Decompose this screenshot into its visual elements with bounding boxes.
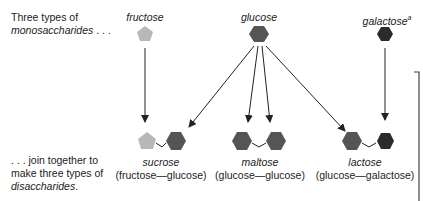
sucrose-name: sucrose: [115, 156, 206, 169]
lactose-molecule-icon: [342, 132, 394, 150]
glucose-label: glucose: [241, 11, 277, 24]
lactose-label: lactose (glucose—galactose): [316, 156, 415, 182]
monosaccharides-intro-label: Three types of monosaccharides . . .: [11, 11, 111, 37]
galactose-hexagon-icon: [377, 27, 393, 41]
glucose-hexagon-icon: [249, 26, 269, 42]
sucrose-molecule-icon: [138, 132, 186, 150]
intro-line2: monosaccharides . . .: [11, 24, 111, 37]
outro-term: disaccharides: [11, 180, 75, 192]
outro-line1: . . . join together to: [11, 154, 103, 167]
lactose-name: lactose: [316, 156, 415, 169]
glucose-to-lactose-arrow: [266, 46, 345, 131]
right-bracket: [414, 72, 419, 201]
intro-line1: Three types of: [11, 11, 111, 24]
fructose-pentagon-icon: [137, 26, 153, 41]
maltose-molecule-icon: [232, 132, 286, 150]
disaccharides-outro-label: . . . join together to make three types …: [11, 154, 103, 193]
maltose-name: maltose: [215, 156, 305, 169]
glucose-to-sucrose-arrow: [189, 46, 254, 127]
fructose-label: fructose: [126, 11, 163, 24]
outro-line2: make three types of: [11, 167, 103, 180]
outro-suffix: .: [75, 180, 78, 192]
intro-term: monosaccharides: [11, 24, 93, 36]
galactose-label: galactosea: [363, 11, 412, 28]
glucose-to-maltose-right-arrow: [262, 46, 270, 122]
galactose-footnote-mark: a: [408, 14, 412, 21]
arrows: [145, 46, 385, 131]
maltose-composition: (glucose—glucose): [215, 169, 305, 182]
sucrose-label: sucrose (fructose—glucose): [115, 156, 206, 182]
outro-line3: disaccharides.: [11, 180, 103, 193]
sucrose-composition: (fructose—glucose): [115, 169, 206, 182]
maltose-label: maltose (glucose—glucose): [215, 156, 305, 182]
lactose-composition: (glucose—galactose): [316, 169, 415, 182]
glucose-to-maltose-left-arrow: [248, 46, 258, 122]
intro-suffix: . . .: [93, 24, 111, 36]
galactose-name: galactose: [363, 15, 408, 27]
